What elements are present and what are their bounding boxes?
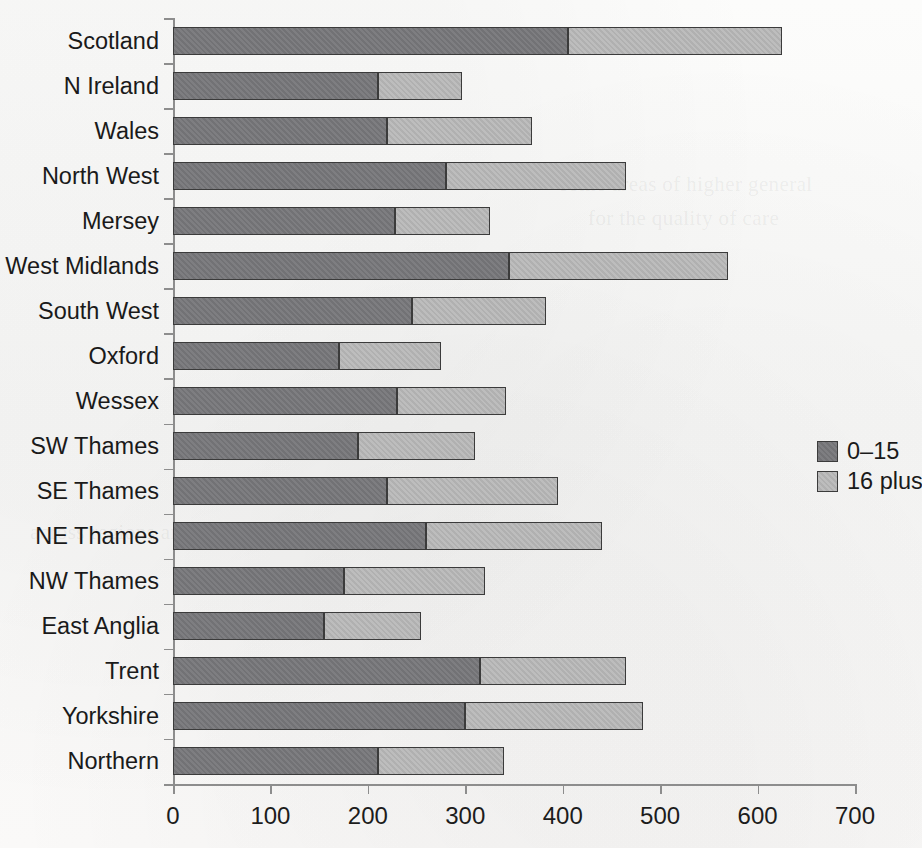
x-axis-tick-label: 400 (543, 802, 583, 830)
x-axis-tick-label: 600 (738, 802, 778, 830)
bar-segment[interactable] (173, 747, 378, 775)
x-axis-tick-label: 300 (445, 802, 485, 830)
category-label: Wales (95, 117, 159, 144)
bar-row[interactable] (173, 27, 855, 55)
x-axis-tick (660, 784, 662, 794)
x-axis-tick (368, 784, 370, 794)
bar-segment[interactable] (173, 117, 387, 145)
bar-segment[interactable] (173, 522, 426, 550)
bar-segment[interactable] (412, 297, 546, 325)
x-axis-tick (758, 784, 760, 794)
category-label: Mersey (82, 207, 159, 234)
category-label: Trent (105, 658, 159, 685)
category-label: N Ireland (64, 72, 159, 99)
category-label: Yorkshire (62, 703, 159, 730)
bar-row[interactable] (173, 612, 855, 640)
x-axis-tick (270, 784, 272, 794)
bar-segment[interactable] (344, 567, 485, 595)
bar-segment[interactable] (173, 297, 412, 325)
bar-segment[interactable] (173, 27, 568, 55)
bar-segment[interactable] (173, 432, 358, 460)
bar-segment[interactable] (173, 477, 387, 505)
bar-row[interactable] (173, 207, 855, 235)
bar-segment[interactable] (378, 747, 505, 775)
y-axis-tick (164, 694, 173, 696)
y-axis-tick (164, 604, 173, 606)
bar-segment[interactable] (324, 612, 421, 640)
bar-segment[interactable] (173, 342, 339, 370)
y-axis-tick (164, 333, 173, 335)
bar-row[interactable] (173, 72, 855, 100)
bar-segment[interactable] (387, 117, 531, 145)
y-axis-tick (164, 108, 173, 110)
bar-segment[interactable] (395, 207, 490, 235)
bar-segment[interactable] (173, 612, 324, 640)
category-label: East Anglia (41, 613, 159, 640)
x-axis-tick-label: 700 (835, 802, 875, 830)
x-axis-tick-label: 200 (348, 802, 388, 830)
y-axis-tick (164, 559, 173, 561)
bar-row[interactable] (173, 747, 855, 775)
x-axis-line (173, 784, 855, 786)
bar-row[interactable] (173, 477, 855, 505)
y-axis-tick (164, 18, 173, 20)
bar-segment[interactable] (378, 72, 463, 100)
bar-row[interactable] (173, 432, 855, 460)
bar-row[interactable] (173, 702, 855, 730)
category-label: Wessex (76, 388, 159, 415)
x-axis-tick (855, 784, 857, 794)
bar-row[interactable] (173, 567, 855, 595)
category-label: SW Thames (30, 433, 159, 460)
bar-segment[interactable] (426, 522, 601, 550)
bar-segment[interactable] (397, 387, 506, 415)
legend-item[interactable]: 0–15 (817, 436, 922, 466)
bar-segment[interactable] (339, 342, 441, 370)
bar-segment[interactable] (173, 252, 509, 280)
category-label: South West (38, 297, 159, 324)
legend-item[interactable]: 16 plus (817, 466, 922, 496)
category-label: Northern (68, 748, 159, 775)
plot-area: ScotlandN IrelandWalesNorth WestMerseyWe… (173, 18, 855, 784)
category-label: SE Thames (37, 478, 159, 505)
bar-row[interactable] (173, 522, 855, 550)
legend-label: 16 plus (847, 468, 922, 495)
y-axis-tick (164, 288, 173, 290)
x-axis-tick (563, 784, 565, 794)
bar-row[interactable] (173, 342, 855, 370)
bar-segment[interactable] (173, 567, 344, 595)
bar-segment[interactable] (358, 432, 475, 460)
y-axis-tick (164, 514, 173, 516)
bar-segment[interactable] (173, 72, 378, 100)
x-axis-tick (173, 784, 175, 794)
legend-label: 0–15 (847, 438, 899, 465)
category-label: NW Thames (29, 568, 159, 595)
bar-row[interactable] (173, 387, 855, 415)
bar-segment[interactable] (480, 657, 626, 685)
bar-segment[interactable] (173, 702, 465, 730)
legend-swatch-icon (817, 471, 838, 492)
category-label: Oxford (88, 342, 159, 369)
bar-segment[interactable] (568, 27, 782, 55)
category-label: West Midlands (5, 252, 159, 279)
category-label: NE Thames (35, 523, 159, 550)
bar-row[interactable] (173, 252, 855, 280)
bar-segment[interactable] (173, 387, 397, 415)
bar-row[interactable] (173, 297, 855, 325)
bar-segment[interactable] (387, 477, 558, 505)
x-axis-tick-label: 0 (166, 802, 179, 830)
bar-segment[interactable] (173, 162, 446, 190)
y-axis-tick (164, 739, 173, 741)
bar-segment[interactable] (465, 702, 642, 730)
bar-row[interactable] (173, 117, 855, 145)
bar-segment[interactable] (173, 207, 395, 235)
y-axis-tick (164, 424, 173, 426)
y-axis-tick (164, 649, 173, 651)
bar-segment[interactable] (173, 657, 480, 685)
bar-row[interactable] (173, 162, 855, 190)
x-axis-tick-label: 100 (250, 802, 290, 830)
legend-swatch-icon (817, 441, 838, 462)
x-axis-tick (465, 784, 467, 794)
bar-row[interactable] (173, 657, 855, 685)
bar-segment[interactable] (509, 252, 728, 280)
bar-segment[interactable] (446, 162, 626, 190)
